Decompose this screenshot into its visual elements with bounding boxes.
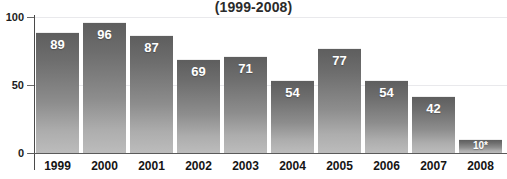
x-axis-label-2003: 2003 xyxy=(222,159,269,173)
bar-2001: 87 xyxy=(130,35,173,153)
bar-value-1999: 89 xyxy=(36,38,79,52)
bar-value-2002: 69 xyxy=(177,65,220,79)
x-axis-label-2007: 2007 xyxy=(410,159,457,173)
bar-chart: (1999-2008) 100 50 0 8996876971547754421… xyxy=(0,0,507,179)
y-tick-100 xyxy=(27,17,34,18)
bar-value-2006: 54 xyxy=(365,86,408,100)
bar-1999: 89 xyxy=(36,32,79,153)
y-axis-label-50: 50 xyxy=(0,80,24,91)
x-axis-label-2004: 2004 xyxy=(269,159,316,173)
y-axis-label-0: 0 xyxy=(0,148,24,159)
y-axis-label-100: 100 xyxy=(0,12,24,23)
bar-2000: 96 xyxy=(83,22,126,153)
bar-value-2007: 42 xyxy=(412,102,455,116)
bar-value-2004: 54 xyxy=(271,86,314,100)
x-axis-label-2008: 2008 xyxy=(457,159,504,173)
bar-2007: 42 xyxy=(412,96,455,153)
bar-2002: 69 xyxy=(177,59,220,153)
bar-2006: 54 xyxy=(365,80,408,153)
x-axis-line xyxy=(28,153,507,154)
x-axis-label-2001: 2001 xyxy=(128,159,175,173)
bar-value-2008: 10* xyxy=(459,141,502,151)
y-tick-50 xyxy=(27,85,34,86)
x-axis-label-2006: 2006 xyxy=(363,159,410,173)
bar-value-2001: 87 xyxy=(130,41,173,55)
x-axis-label-2002: 2002 xyxy=(175,159,222,173)
x-axis-label-2000: 2000 xyxy=(81,159,128,173)
x-axis-label-1999: 1999 xyxy=(34,159,81,173)
bar-value-2000: 96 xyxy=(83,28,126,42)
bar-value-2003: 71 xyxy=(224,62,267,76)
x-axis-label-2005: 2005 xyxy=(316,159,363,173)
chart-title: (1999-2008) xyxy=(0,0,507,15)
bar-2005: 77 xyxy=(318,48,361,153)
bar-2008: 10* xyxy=(459,139,502,153)
bar-value-2005: 77 xyxy=(318,54,361,68)
bar-2004: 54 xyxy=(271,80,314,153)
bar-2003: 71 xyxy=(224,56,267,153)
